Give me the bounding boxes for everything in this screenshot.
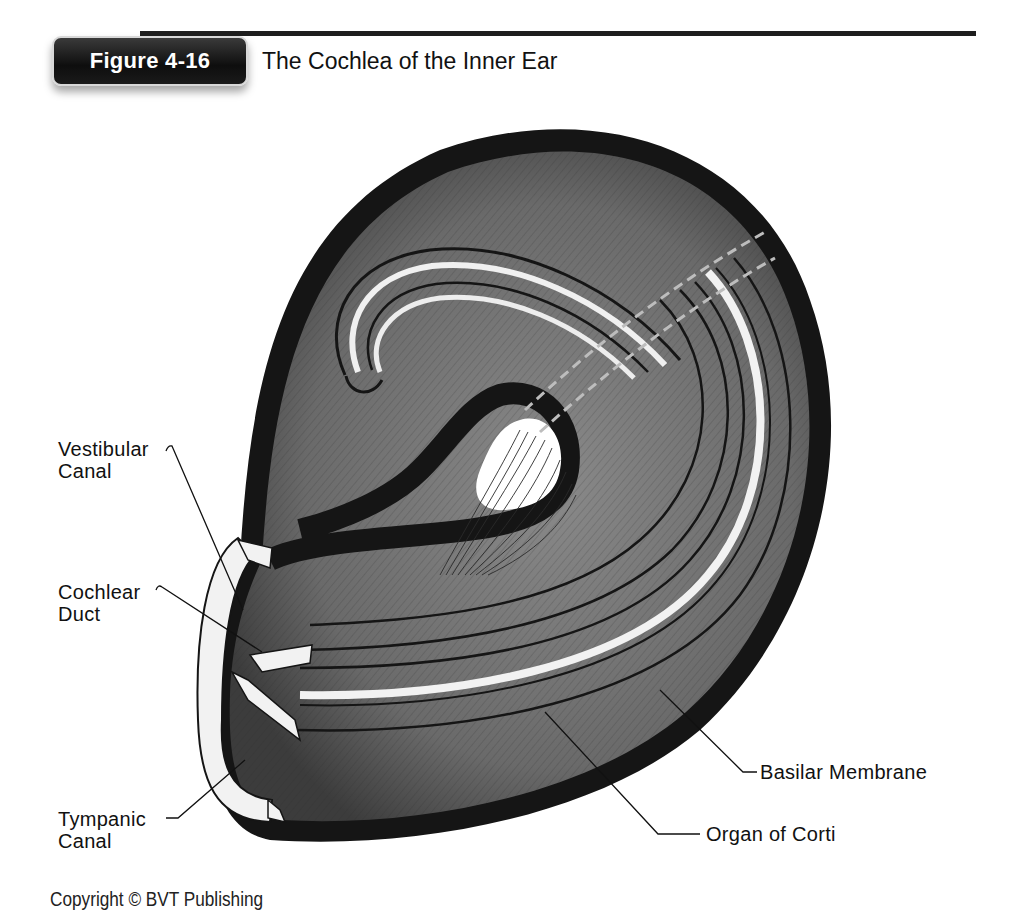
label-organ-of-corti: Organ of Corti (706, 823, 836, 845)
label-vestibular-canal: Vestibular Canal (58, 438, 149, 482)
label-tympanic-canal: Tympanic Canal (58, 808, 146, 852)
label-cochlear-duct: Cochlear Duct (58, 581, 140, 625)
label-basilar-membrane: Basilar Membrane (760, 761, 927, 783)
cochlea-illustration (0, 0, 1022, 922)
copyright-notice: Copyright © BVT Publishing (50, 888, 263, 911)
